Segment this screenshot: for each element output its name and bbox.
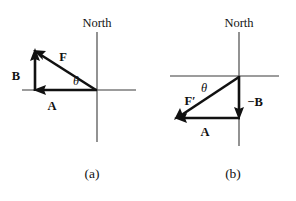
panel-a-label-north: North bbox=[82, 16, 112, 30]
panel-a-label-B: B bbox=[12, 69, 20, 83]
vector-diagram-figure: A B F θ North (a) bbox=[0, 0, 296, 201]
panel-b-label-F-prime: F′ bbox=[184, 94, 195, 108]
panel-b-label-A: A bbox=[200, 125, 209, 139]
panel-a: A B F θ North (a) bbox=[12, 16, 136, 181]
panel-b-caption: (b) bbox=[225, 166, 241, 181]
panel-b-label-north: North bbox=[224, 16, 254, 30]
panel-b-label-theta: θ bbox=[201, 81, 207, 95]
panel-b-label-minus-B: −B bbox=[247, 95, 262, 109]
panel-a-vector-F-shaft bbox=[41, 55, 96, 90]
panel-a-label-F: F bbox=[59, 50, 67, 64]
panel-a-label-theta: θ bbox=[73, 74, 79, 88]
panel-a-vector-A bbox=[33, 85, 97, 95]
figure-canvas: A B F θ North (a) bbox=[0, 0, 296, 201]
panel-a-caption: (a) bbox=[85, 166, 100, 181]
panel-b: A −B F′ θ North (b) bbox=[170, 16, 279, 181]
panel-a-label-A: A bbox=[47, 99, 56, 113]
panel-b-vector-minus-B bbox=[234, 76, 244, 120]
